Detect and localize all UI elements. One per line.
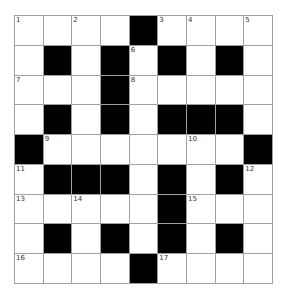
- crossword-cell[interactable]: [216, 16, 245, 46]
- block-cell: [101, 165, 130, 195]
- block-cell: [44, 224, 73, 254]
- block-cell: [72, 165, 101, 195]
- crossword-cell[interactable]: 12: [244, 165, 273, 195]
- block-cell: [130, 16, 159, 46]
- clue-number: 10: [188, 135, 197, 143]
- block-cell: [101, 105, 130, 135]
- block-cell: [216, 105, 245, 135]
- crossword-cell[interactable]: [44, 16, 73, 46]
- crossword-cell[interactable]: 5: [244, 16, 273, 46]
- crossword-cell[interactable]: [72, 224, 101, 254]
- crossword-cell[interactable]: [130, 165, 159, 195]
- block-cell: [101, 76, 130, 106]
- clue-number: 16: [16, 254, 25, 262]
- block-cell: [44, 105, 73, 135]
- crossword-cell[interactable]: [187, 76, 216, 106]
- block-cell: [158, 195, 187, 225]
- crossword-cell[interactable]: [101, 254, 130, 284]
- crossword-cell[interactable]: [216, 195, 245, 225]
- block-cell: [158, 105, 187, 135]
- crossword-cell[interactable]: 13: [15, 195, 44, 225]
- crossword-cell[interactable]: [216, 76, 245, 106]
- clue-number: 7: [16, 76, 20, 84]
- crossword-grid: 1234567891011121314151617: [14, 15, 273, 284]
- crossword-cell[interactable]: [187, 224, 216, 254]
- crossword-cell[interactable]: [72, 254, 101, 284]
- crossword-cell[interactable]: 10: [187, 135, 216, 165]
- crossword-cell[interactable]: [72, 46, 101, 76]
- crossword-cell[interactable]: [158, 76, 187, 106]
- block-cell: [44, 46, 73, 76]
- block-cell: [130, 254, 159, 284]
- crossword-cell[interactable]: [130, 135, 159, 165]
- crossword-cell[interactable]: [187, 46, 216, 76]
- crossword-cell[interactable]: [72, 135, 101, 165]
- crossword-cell[interactable]: 7: [15, 76, 44, 106]
- clue-number: 4: [188, 16, 192, 24]
- crossword-cell[interactable]: [244, 46, 273, 76]
- block-cell: [216, 46, 245, 76]
- block-cell: [158, 224, 187, 254]
- crossword-cell[interactable]: 6: [130, 46, 159, 76]
- crossword-cell[interactable]: [158, 135, 187, 165]
- clue-number: 5: [245, 16, 249, 24]
- crossword-cell[interactable]: 1: [15, 16, 44, 46]
- clue-number: 11: [16, 165, 25, 173]
- clue-number: 6: [131, 46, 135, 54]
- crossword-cell[interactable]: [244, 105, 273, 135]
- crossword-cell[interactable]: 17: [158, 254, 187, 284]
- block-cell: [44, 165, 73, 195]
- clue-number: 1: [16, 16, 20, 24]
- crossword-cell[interactable]: [187, 165, 216, 195]
- crossword-cell[interactable]: 9: [44, 135, 73, 165]
- crossword-cell[interactable]: [72, 76, 101, 106]
- crossword-cell[interactable]: [15, 46, 44, 76]
- crossword-cell[interactable]: [130, 195, 159, 225]
- crossword-cell[interactable]: 14: [72, 195, 101, 225]
- clue-number: 14: [73, 195, 82, 203]
- crossword-cell[interactable]: [244, 195, 273, 225]
- crossword-cell[interactable]: [101, 135, 130, 165]
- block-cell: [101, 224, 130, 254]
- block-cell: [216, 165, 245, 195]
- crossword-cell[interactable]: [15, 105, 44, 135]
- crossword-cell[interactable]: [244, 76, 273, 106]
- crossword-cell[interactable]: [72, 105, 101, 135]
- block-cell: [187, 105, 216, 135]
- crossword-cell[interactable]: [44, 76, 73, 106]
- crossword-cell[interactable]: [130, 105, 159, 135]
- block-cell: [158, 165, 187, 195]
- crossword-cell[interactable]: [44, 195, 73, 225]
- crossword-cell[interactable]: 3: [158, 16, 187, 46]
- block-cell: [158, 46, 187, 76]
- crossword-cell[interactable]: [15, 224, 44, 254]
- block-cell: [216, 224, 245, 254]
- crossword-cell[interactable]: [244, 254, 273, 284]
- crossword-cell[interactable]: 2: [72, 16, 101, 46]
- crossword-cell[interactable]: [130, 224, 159, 254]
- crossword-cell[interactable]: [101, 16, 130, 46]
- clue-number: 3: [159, 16, 163, 24]
- crossword-cell[interactable]: 16: [15, 254, 44, 284]
- clue-number: 17: [159, 254, 168, 262]
- block-cell: [101, 46, 130, 76]
- crossword-cell[interactable]: [216, 135, 245, 165]
- clue-number: 15: [188, 195, 197, 203]
- crossword-cell[interactable]: [187, 254, 216, 284]
- clue-number: 9: [45, 135, 49, 143]
- clue-number: 8: [131, 76, 135, 84]
- crossword-cell[interactable]: 15: [187, 195, 216, 225]
- crossword-cell[interactable]: [216, 254, 245, 284]
- crossword-cell[interactable]: [244, 224, 273, 254]
- crossword-cell[interactable]: 11: [15, 165, 44, 195]
- crossword-cell[interactable]: [101, 195, 130, 225]
- crossword-cell[interactable]: 8: [130, 76, 159, 106]
- crossword-cell[interactable]: [44, 254, 73, 284]
- clue-number: 13: [16, 195, 25, 203]
- clue-number: 2: [73, 16, 77, 24]
- clue-number: 12: [245, 165, 254, 173]
- crossword-cell[interactable]: 4: [187, 16, 216, 46]
- block-cell: [15, 135, 44, 165]
- block-cell: [244, 135, 273, 165]
